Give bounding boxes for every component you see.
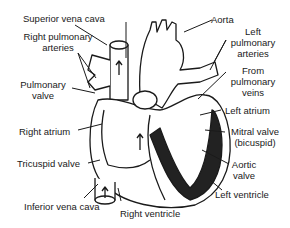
label-from-pulmonary-veins-line2: pulmonary — [225, 76, 281, 87]
label-right-atrium: Right atrium — [19, 126, 70, 137]
label-aortic-valve: Aortic valve — [224, 159, 264, 181]
label-right-pulmonary-arteries-line2: arteries — [19, 42, 97, 53]
label-left-atrium: Left atrium — [225, 105, 270, 116]
label-left-pulmonary-arteries: Left pulmonary arteries — [225, 26, 281, 59]
label-inferior-vena-cava: Inferior vena cava — [24, 201, 100, 212]
label-from-pulmonary-veins-line3: veins — [225, 87, 281, 98]
label-aorta: Aorta — [211, 14, 234, 25]
label-tricuspid-valve: Tricuspid valve — [17, 158, 80, 169]
label-left-pulmonary-arteries-line1: Left — [225, 26, 281, 37]
label-right-ventricle: Right ventricle — [120, 208, 180, 219]
label-from-pulmonary-veins-line1: From — [225, 65, 281, 76]
label-right-pulmonary-arteries: Right pulmonary arteries — [19, 31, 97, 53]
label-mitral-valve-line2: (bicuspid) — [222, 137, 288, 148]
label-mitral-valve-line1: Mitral valve — [222, 126, 288, 137]
label-right-pulmonary-arteries-line1: Right pulmonary — [19, 31, 97, 42]
label-superior-vena-cava: Superior vena cava — [23, 13, 105, 24]
label-aortic-valve-line2: valve — [224, 170, 264, 181]
label-left-ventricle: Left ventricle — [215, 189, 269, 200]
label-pulmonary-valve: Pulmonary valve — [18, 79, 68, 101]
label-left-pulmonary-arteries-line2: pulmonary — [225, 37, 281, 48]
label-from-pulmonary-veins: From pulmonary veins — [225, 65, 281, 98]
label-mitral-valve: Mitral valve (bicuspid) — [222, 126, 288, 148]
label-aortic-valve-line1: Aortic — [224, 159, 264, 170]
label-pulmonary-valve-line2: valve — [18, 90, 68, 101]
label-left-pulmonary-arteries-line3: arteries — [225, 48, 281, 59]
label-pulmonary-valve-line1: Pulmonary — [18, 79, 68, 90]
